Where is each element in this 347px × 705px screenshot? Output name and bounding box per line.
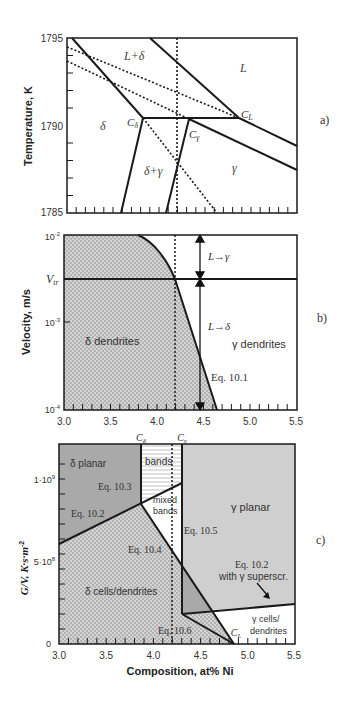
point-c-delta: Cδ bbox=[127, 116, 138, 130]
panel-a: 1795 1790 1785 Temperature, K L+δ L δ δ+… bbox=[22, 33, 329, 218]
phase-boundaries bbox=[72, 38, 297, 213]
x-tick-b-3.0: 3.0 bbox=[57, 416, 71, 427]
region-delta-gamma: δ+γ bbox=[144, 164, 163, 178]
region-mixed-bands-2: bands bbox=[153, 506, 178, 516]
region-gamma-cells-2: dendrites bbox=[250, 626, 288, 636]
y-tick-1e-4: 10-4 bbox=[45, 404, 61, 415]
region-delta-cells: δ cells/dendrites bbox=[85, 586, 157, 597]
x-ticks-a bbox=[76, 207, 288, 213]
point-c-l: CL bbox=[241, 108, 253, 122]
x-tick-c-3.5: 3.5 bbox=[99, 650, 113, 661]
annotation-eq-10-6: Eq. 10.6 bbox=[158, 625, 192, 636]
y-tick-5e8: 5·108 bbox=[34, 556, 56, 567]
x-axis-label-c: Composition, at% Ni bbox=[127, 665, 234, 677]
region-gamma: γ bbox=[232, 161, 237, 175]
region-delta-dendrites: δ dendrites bbox=[85, 335, 140, 347]
x-tick-c-3.0: 3.0 bbox=[52, 650, 66, 661]
annotation-eq-10-3: Eq. 10.3 bbox=[98, 481, 132, 492]
panel-label-b: b) bbox=[317, 311, 327, 325]
annotation-l-to-gamma: L→γ bbox=[207, 250, 230, 262]
point-c-gamma: Cγ bbox=[189, 128, 200, 142]
y-tick-1790: 1790 bbox=[41, 121, 64, 132]
y-tick-1795: 1795 bbox=[41, 33, 64, 44]
annotation-eq-10-2: Eq. 10.2 bbox=[71, 508, 105, 519]
panel-b: 10-2 10-3 10-4 Vtr 3.0 3.5 4.0 4.5 5.0 5… bbox=[20, 231, 327, 427]
point-c-gamma-c: Cγ bbox=[177, 432, 187, 445]
x-tick-c-4.0: 4.0 bbox=[146, 650, 160, 661]
x-tick-c-5.5: 5.5 bbox=[287, 650, 301, 661]
annotation-eq-10-4: Eq. 10.4 bbox=[128, 544, 162, 555]
x-tick-b-5.5: 5.5 bbox=[289, 416, 303, 427]
y-tick-1e9: 1·109 bbox=[34, 474, 56, 485]
y-axis-label-b: Velocity, m/s bbox=[20, 289, 32, 355]
region-bands: bands bbox=[145, 456, 172, 467]
delta-dendrites-region bbox=[64, 235, 217, 410]
annotation-eq-10-1: Eq. 10.1 bbox=[211, 371, 248, 383]
annotation-eq-10-2-gamma-2: with γ superscr. bbox=[218, 571, 288, 582]
y-ticks-a bbox=[67, 56, 73, 196]
figure: 1795 1790 1785 Temperature, K L+δ L δ δ+… bbox=[0, 0, 347, 705]
region-l-delta: L+δ bbox=[123, 49, 145, 63]
y-tick-1785: 1785 bbox=[41, 207, 64, 218]
x-tick-b-4.0: 4.0 bbox=[150, 416, 164, 427]
metastable-lines bbox=[67, 38, 239, 213]
x-tick-b-3.5: 3.5 bbox=[104, 416, 118, 427]
region-gamma-cells-1: γ cells/ bbox=[252, 614, 280, 624]
region-delta-planar: δ planar bbox=[70, 458, 107, 469]
y-tick-1e-2: 10-2 bbox=[45, 231, 61, 242]
x-tick-b-5.0: 5.0 bbox=[243, 416, 257, 427]
panel-label-c: c) bbox=[316, 533, 325, 547]
panel-c: 1·109 5·108 0 3.0 3.5 4.0 4.5 5.0 5.5 Co… bbox=[18, 432, 325, 677]
x-tick-c-4.5: 4.5 bbox=[194, 650, 208, 661]
panel-label-a: a) bbox=[320, 113, 329, 127]
y-tick-1e-3: 10-3 bbox=[45, 317, 61, 328]
x-tick-c-5.0: 5.0 bbox=[241, 650, 255, 661]
annotation-l-to-delta: L→δ bbox=[207, 320, 231, 332]
y-axis-label-a: Temperature, K bbox=[22, 86, 34, 166]
region-mixed-bands-1: mixed bbox=[153, 495, 177, 505]
annotation-eq-10-5: Eq. 10.5 bbox=[184, 525, 218, 536]
region-gamma-planar: γ planar bbox=[231, 501, 270, 513]
region-delta: δ bbox=[100, 119, 106, 133]
x-tick-b-4.5: 4.5 bbox=[197, 416, 211, 427]
y-tick-0: 0 bbox=[46, 639, 51, 649]
y-axis-label-c: G/V, K·s·m-2 bbox=[18, 541, 30, 595]
region-l: L bbox=[239, 61, 247, 75]
annotation-eq-10-2-gamma-1: Eq. 10.2 bbox=[235, 559, 269, 570]
point-c-delta-c: Cδ bbox=[136, 432, 147, 445]
region-gamma-dendrites: γ dendrites bbox=[232, 338, 286, 350]
y-tick-vtr: Vtr bbox=[46, 272, 60, 287]
